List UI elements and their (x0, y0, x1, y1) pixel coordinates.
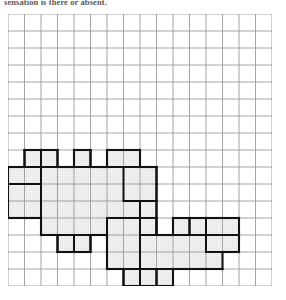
shaded-cell (223, 218, 240, 235)
shaded-cell (173, 252, 190, 269)
shaded-cell (206, 235, 223, 252)
shaded-cell (74, 184, 91, 201)
shaded-cell (91, 167, 108, 184)
shaded-cell (124, 252, 141, 269)
shaded-cell (140, 235, 157, 252)
shaded-cell (107, 218, 124, 235)
shaded-cell (107, 252, 124, 269)
shaded-cell (25, 167, 42, 184)
shaded-cell (124, 201, 141, 218)
shaded-cell (140, 252, 157, 269)
shaded-cell (91, 218, 108, 235)
figure-caption: sensation is there or absent. (4, 0, 284, 9)
shaded-cell (41, 218, 58, 235)
shaded-cell (140, 201, 157, 218)
shaded-cell (206, 252, 223, 269)
shaded-cell (157, 252, 174, 269)
shaded-cell (206, 218, 223, 235)
shaded-cell (58, 218, 75, 235)
shaded-cell (124, 218, 141, 235)
shaded-cell (140, 184, 157, 201)
shaded-cell (173, 218, 190, 235)
shaded-cell (107, 235, 124, 252)
shaded-cell (124, 150, 141, 167)
shaded-cell (74, 167, 91, 184)
shaded-cell (41, 150, 58, 167)
shaded-cell (58, 235, 75, 252)
shaded-cell (25, 201, 42, 218)
shaded-cell (107, 167, 124, 184)
shaded-cell (190, 218, 207, 235)
shaded-cell (124, 235, 141, 252)
shaded-cell (41, 167, 58, 184)
shaded-cell (58, 184, 75, 201)
shaded-cell (107, 184, 124, 201)
shaded-cell (190, 235, 207, 252)
shaded-cell (140, 218, 157, 235)
shaded-cell (223, 235, 240, 252)
shaded-cell (8, 167, 25, 184)
shaded-cell (58, 201, 75, 218)
shaded-cell (74, 201, 91, 218)
shaded-cell (91, 184, 108, 201)
shaded-cell (91, 201, 108, 218)
shaded-cell (190, 252, 207, 269)
shaded-cell (140, 167, 157, 184)
shaded-cell (157, 269, 174, 286)
shaded-cell (124, 269, 141, 286)
grid-canvas (8, 14, 272, 286)
shaded-cell (173, 235, 190, 252)
shaded-cell (25, 184, 42, 201)
shaded-cell (107, 150, 124, 167)
shaded-cell (41, 184, 58, 201)
shaded-cell (107, 201, 124, 218)
shaded-cell (58, 167, 75, 184)
grid-figure (8, 14, 272, 286)
shaded-cell (74, 150, 91, 167)
shaded-cell (25, 150, 42, 167)
shaded-cell (124, 184, 141, 201)
shaded-cell (74, 235, 91, 252)
shaded-cell (74, 218, 91, 235)
shaded-cell (140, 269, 157, 286)
shaded-cell (8, 201, 25, 218)
shaded-cell (8, 184, 25, 201)
shaded-cell (124, 167, 141, 184)
shaded-cell (41, 201, 58, 218)
shaded-cell (157, 235, 174, 252)
